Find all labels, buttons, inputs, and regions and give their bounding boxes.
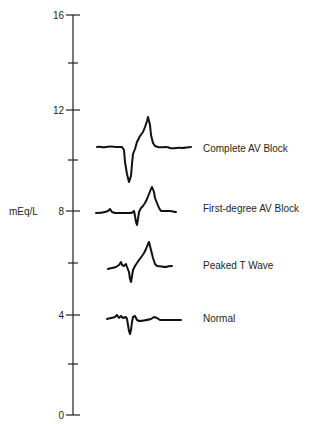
tick-label-12: 12 <box>53 105 65 116</box>
trace-label-peaked-t-wave: Peaked T Wave <box>203 260 274 271</box>
trace-label-normal: Normal <box>203 313 235 324</box>
y-axis-tick-labels: 16 12 8 4 0 <box>53 10 65 421</box>
trace-peaked-t-wave <box>108 242 172 282</box>
trace-normal <box>107 315 181 334</box>
tick-label-4: 4 <box>58 310 64 321</box>
y-axis-unit-label: mEq/L <box>9 206 38 217</box>
trace-label-complete-av-block: Complete AV Block <box>203 143 289 154</box>
trace-label-first-degree-av-block: First-degree AV Block <box>203 203 300 214</box>
tick-label-16: 16 <box>53 10 65 21</box>
trace-first-degree-av-block <box>96 187 176 225</box>
trace-complete-av-block <box>97 117 191 182</box>
tick-label-8: 8 <box>58 206 64 217</box>
ecg-potassium-diagram: 16 12 8 4 0 mEq/L Complete AV Block Firs… <box>0 0 310 424</box>
tick-label-0: 0 <box>58 410 64 421</box>
